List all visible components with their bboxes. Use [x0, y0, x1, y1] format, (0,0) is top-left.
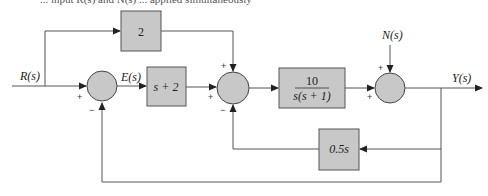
gain-label: 2 [138, 25, 144, 39]
summing-junction-1 [87, 71, 117, 101]
error-label: E(s) [120, 70, 141, 84]
output-label: Y(s) [452, 71, 471, 85]
sum2-minus: − [220, 105, 225, 115]
input-label: R(s) [19, 69, 40, 83]
sum3-plus-top: + [378, 63, 383, 73]
diagram-svg: ... input R(s) and N(s) ... applied simu… [0, 0, 488, 196]
sum3-plus-left: + [367, 92, 372, 102]
summing-junction-2 [217, 72, 249, 104]
inner-feedback-out-line [233, 105, 319, 149]
sum1-minus: − [89, 105, 94, 115]
block-diagram: ... input R(s) and N(s) ... applied simu… [0, 0, 488, 196]
controller-label: s + 2 [154, 80, 179, 94]
sum2-plus-top: + [221, 61, 226, 71]
caption-fragment: ... input R(s) and N(s) ... applied simu… [40, 0, 252, 6]
sum2-plus-left: + [208, 92, 213, 102]
plant-denominator: s(s + 1) [293, 89, 330, 103]
sum1-plus: + [77, 92, 82, 102]
summing-junction-3 [375, 73, 405, 103]
plant-numerator: 10 [306, 74, 318, 88]
disturbance-label: N(s) [381, 28, 403, 42]
outer-feedback-line [102, 103, 441, 182]
feedback-label: 0.5s [329, 142, 349, 156]
